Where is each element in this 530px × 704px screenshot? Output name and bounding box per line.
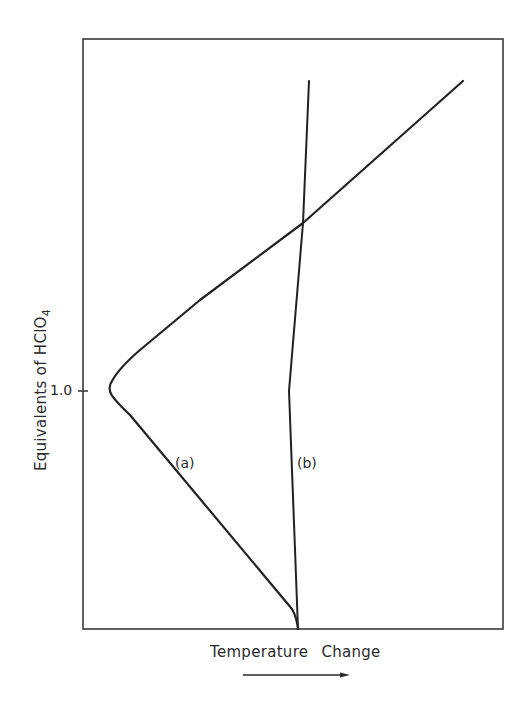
x-axis-label: Temperature Change — [210, 643, 381, 661]
arrow-right-icon — [340, 673, 350, 678]
y-tick-label: 1.0 — [50, 382, 72, 398]
series-a-line — [109, 81, 463, 629]
series-b-line — [289, 81, 309, 629]
chart-canvas — [0, 0, 530, 704]
series-a-label: (a) — [175, 455, 195, 471]
y-axis-label-text: Equivalents of HClO — [32, 316, 50, 471]
series-b-label: (b) — [297, 455, 317, 471]
y-axis-label-subscript: 4 — [40, 309, 53, 316]
